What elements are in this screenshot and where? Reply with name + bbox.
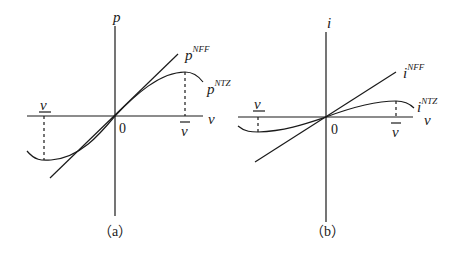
upper-bound-label-b: ν [392, 124, 399, 140]
nff-label-b: iNFF [403, 62, 425, 81]
y-axis-label-b: i [327, 15, 331, 31]
y-axis-label-a: p [112, 9, 121, 25]
nff-label-a: pNFF [184, 44, 210, 63]
origin-label-a: 0 [119, 121, 126, 136]
upper-bound-label-a: ν [181, 123, 188, 139]
panel-b [238, 32, 414, 222]
origin-label-b: 0 [331, 122, 338, 137]
diagram-canvas: p ν 0 ν ν pNFF pNTZ （a） i ν 0 ν ν iNFF i… [0, 0, 458, 254]
caption-a: （a） [98, 224, 132, 239]
lower-bound-label-b: ν [254, 96, 261, 112]
x-axis-label-a: ν [208, 111, 215, 127]
ntz-label-a: pNTZ [206, 78, 232, 97]
lower-bound-label-a: ν [40, 97, 47, 113]
panel-a [27, 26, 203, 216]
x-axis-label-b: ν [424, 112, 431, 128]
caption-b: （b） [310, 224, 345, 239]
